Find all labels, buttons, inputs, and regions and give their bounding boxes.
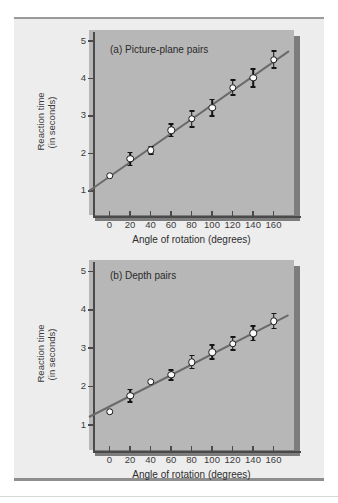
x-axis-label: Angle of rotation (degrees) [59,234,324,245]
y-tick-label: 4 [68,73,86,83]
x-tick-label: 160 [260,220,288,230]
y-tick-label: 3 [68,343,86,353]
chart-panel-depth: (b) Depth pairs Reaction time (in second… [14,250,324,475]
y-axis-label-line2: (in seconds) [46,94,57,150]
footer-rule [0,496,338,497]
y-tick-label: 3 [68,110,86,120]
plot-area [89,260,294,450]
y-tick-label: 2 [68,148,86,158]
y-tick-label: 1 [68,185,86,195]
y-axis-label-line2: (in seconds) [46,327,57,383]
y-tick-label: 1 [68,420,86,430]
y-axis-label-line1: Reaction time [35,94,46,150]
y-tick-label: 5 [68,36,86,46]
figure-root: (a) Picture-plane pairs Reaction time (i… [0,0,338,503]
chart-panel-picture-plane: (a) Picture-plane pairs Reaction time (i… [14,20,324,235]
y-tick-label: 5 [68,266,86,276]
x-axis-label: Angle of rotation (degrees) [59,469,324,480]
panel-title: (a) Picture-plane pairs [110,44,208,55]
plot-area [89,30,294,215]
panel-title: (b) Depth pairs [110,270,176,281]
y-tick-label: 4 [68,304,86,314]
y-axis-label-line1: Reaction time [35,327,46,383]
top-rule [14,17,324,19]
y-tick-label: 2 [68,381,86,391]
x-tick-label: 160 [260,455,288,465]
